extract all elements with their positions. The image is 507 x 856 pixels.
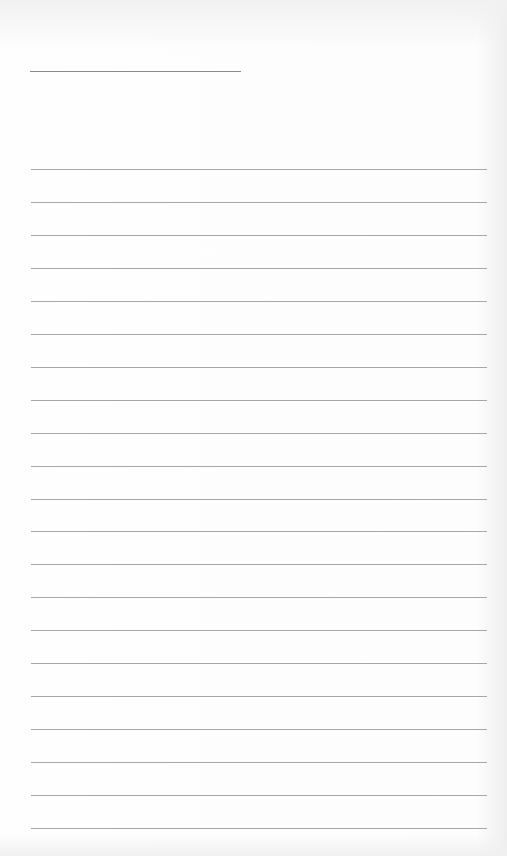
title-line [30,71,241,72]
ruled-line [31,367,487,368]
ruled-line [31,696,487,697]
ruled-line [31,828,487,829]
ruled-line [31,531,487,532]
ruled-line [31,663,487,664]
ruled-line [31,762,487,763]
ruled-line [31,630,487,631]
ruled-line [31,301,487,302]
top-shadow [0,0,507,50]
ruled-line [31,597,487,598]
bottom-shadow [0,834,507,856]
ruled-line [31,268,487,269]
ruled-line [31,499,487,500]
ruled-line [31,169,487,170]
ruled-line [31,466,487,467]
ruled-line [31,564,487,565]
ruled-line [31,795,487,796]
ruled-line [31,235,487,236]
ruled-line [31,202,487,203]
lined-paper [0,0,507,856]
ruled-line [31,334,487,335]
ruled-line [31,729,487,730]
ruled-line [31,433,487,434]
ruled-line [31,400,487,401]
